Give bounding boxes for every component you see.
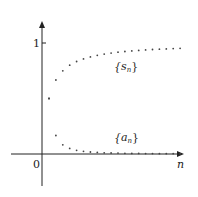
series-s-label-close: } (131, 60, 138, 73)
data-point (152, 153, 154, 155)
data-point (131, 50, 133, 52)
data-point (117, 152, 119, 154)
series-s-points (48, 47, 181, 99)
series-a-label-main: {a (114, 131, 128, 144)
data-point (138, 153, 140, 155)
y-axis-arrow-icon (39, 21, 45, 28)
series-s-label-main: {s (114, 60, 127, 73)
data-point (159, 48, 161, 50)
data-point (165, 48, 167, 50)
sequence-chart: 1 0 n {sn} {an} (0, 0, 198, 197)
data-point (179, 153, 181, 155)
data-point (124, 152, 126, 154)
data-point (96, 54, 98, 56)
origin-label: 0 (33, 158, 40, 171)
data-point (62, 144, 64, 146)
data-point (145, 49, 147, 51)
data-point (69, 148, 71, 150)
data-point (110, 52, 112, 54)
series-a-label-close: } (132, 131, 139, 144)
data-point (159, 153, 161, 155)
data-point (55, 135, 57, 137)
data-point (76, 149, 78, 151)
data-point (103, 53, 105, 55)
data-point (83, 58, 85, 60)
y-tick-label-1: 1 (33, 37, 40, 50)
data-point (83, 150, 85, 152)
series-a-label: {an} (114, 131, 139, 145)
data-point (152, 49, 154, 51)
series-s-label: {sn} (114, 60, 138, 74)
data-point (131, 153, 133, 155)
series-a-points (48, 98, 181, 155)
data-point (110, 152, 112, 154)
data-point (96, 152, 98, 154)
data-point (90, 151, 92, 153)
data-point (62, 70, 64, 72)
data-point (103, 152, 105, 154)
data-point (172, 153, 174, 155)
data-point (48, 98, 50, 100)
data-point (90, 56, 92, 58)
data-point (124, 51, 126, 53)
data-point (165, 153, 167, 155)
x-axis-label: n (177, 158, 184, 171)
data-point (55, 79, 57, 81)
data-point (179, 47, 181, 49)
data-point (117, 51, 119, 53)
data-point (76, 61, 78, 63)
data-point (138, 50, 140, 52)
data-point (172, 48, 174, 50)
data-point (69, 64, 71, 66)
data-point (145, 153, 147, 155)
